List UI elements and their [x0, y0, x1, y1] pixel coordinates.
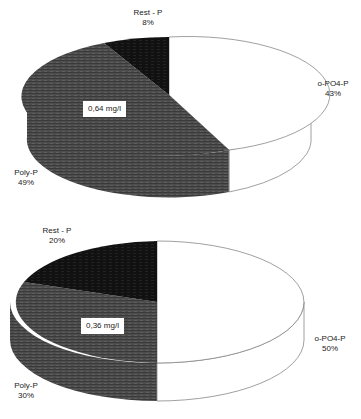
- label-rest-p: Rest - P 20%: [32, 226, 82, 246]
- label-opo4-p: o-PO4-P 50%: [302, 334, 358, 354]
- label-name: o-PO4-P: [302, 334, 358, 344]
- annotation-concentration: 0,36 mg/l: [81, 318, 124, 334]
- label-name: Rest - P: [118, 8, 178, 18]
- label-pct: 43%: [305, 89, 361, 99]
- label-name: Poly-P: [6, 168, 46, 178]
- pie-chart-top: Rest - P 8% o-PO4-P 43% Poly-P 49% 0,64 …: [0, 0, 361, 210]
- annotation-concentration: 0,64 mg/l: [83, 101, 126, 117]
- label-poly-p: Poly-P 49%: [6, 168, 46, 188]
- pie-graphic-top: [0, 0, 361, 210]
- label-name: Rest - P: [32, 226, 82, 236]
- label-pct: 30%: [6, 391, 46, 401]
- label-poly-p: Poly-P 30%: [6, 381, 46, 401]
- label-name: Poly-P: [6, 381, 46, 391]
- label-pct: 20%: [32, 236, 82, 246]
- label-rest-p: Rest - P 8%: [118, 8, 178, 28]
- pie-chart-bottom: Rest - P 20% o-PO4-P 50% Poly-P 30% 0,36…: [0, 210, 361, 419]
- label-name: o-PO4-P: [305, 79, 361, 89]
- label-opo4-p: o-PO4-P 43%: [305, 79, 361, 99]
- label-pct: 50%: [302, 344, 358, 354]
- label-pct: 49%: [6, 178, 46, 188]
- label-pct: 8%: [118, 18, 178, 28]
